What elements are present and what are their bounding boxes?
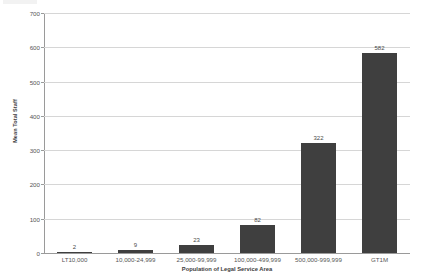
- y-tick-label: 500: [14, 78, 40, 85]
- x-tick-label: 25,000-99,999: [177, 256, 217, 263]
- x-axis-title: Population of Legal Service Area: [44, 266, 410, 272]
- y-tick-label: 200: [14, 181, 40, 188]
- x-tick-label: GT1M: [371, 256, 388, 263]
- x-tick-label: LT10,000: [62, 256, 88, 263]
- bar[interactable]: [362, 53, 396, 253]
- bar-group[interactable]: 82: [227, 13, 288, 253]
- bar[interactable]: [57, 252, 91, 254]
- x-tick-label: 10,000-24,999: [116, 256, 156, 263]
- bar[interactable]: [118, 250, 152, 253]
- y-tick-label: 400: [14, 112, 40, 119]
- bar-group[interactable]: 2: [44, 13, 105, 253]
- bar-chart: Mean Total Staff 0100200300400500600700 …: [0, 0, 421, 276]
- bar[interactable]: [301, 143, 335, 253]
- y-tick-label: 300: [14, 147, 40, 154]
- bar-series: 292382322582: [44, 13, 410, 253]
- bar[interactable]: [179, 245, 213, 253]
- bar-group[interactable]: 23: [166, 13, 227, 253]
- bar-group[interactable]: 9: [105, 13, 166, 253]
- x-tick-label: 100,000-499,999: [234, 256, 281, 263]
- bar[interactable]: [240, 225, 274, 253]
- y-tick-label: 0: [14, 250, 40, 257]
- bar-value-label: 322: [288, 135, 349, 141]
- bar-value-label: 82: [227, 217, 288, 223]
- bar-value-label: 9: [105, 242, 166, 248]
- y-tick-label: 600: [14, 44, 40, 51]
- y-tick-mark: [41, 253, 44, 254]
- bar-value-label: 23: [166, 237, 227, 243]
- y-axis-tick-labels: 0100200300400500600700: [8, 0, 40, 276]
- bar-group[interactable]: 582: [349, 13, 410, 253]
- bar-value-label: 582: [349, 45, 410, 51]
- plot-area: 292382322582: [44, 13, 410, 253]
- axis-baseline: [44, 253, 410, 254]
- y-tick-label: 100: [14, 215, 40, 222]
- bar-value-label: 2: [44, 244, 105, 250]
- bar-group[interactable]: 322: [288, 13, 349, 253]
- x-tick-label: 500,000-999,999: [295, 256, 342, 263]
- y-tick-label: 700: [14, 10, 40, 17]
